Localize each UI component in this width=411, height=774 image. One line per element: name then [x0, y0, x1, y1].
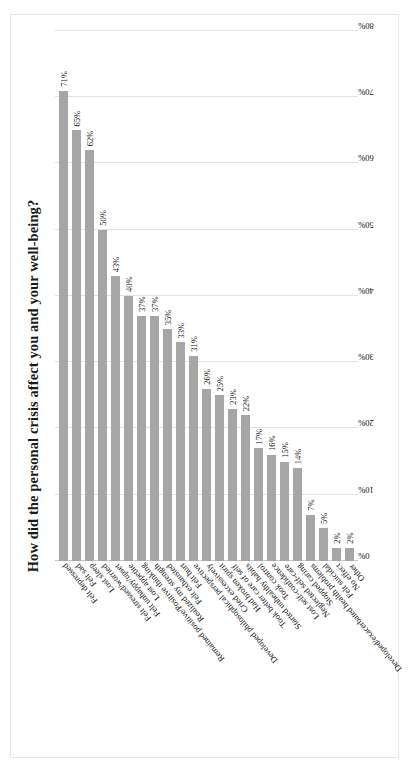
- bar-value-label: 7%: [306, 499, 316, 510]
- bar-value-label: 2%: [332, 532, 342, 543]
- bar-row[interactable]: 31%: [187, 31, 200, 561]
- category-row: Took better care of self: [226, 561, 239, 757]
- axis-tick-label: 10%: [358, 485, 374, 495]
- bar-value-label: 37%: [137, 296, 147, 312]
- category-row: Developed/exacerbated health problems: [304, 561, 317, 757]
- bar-value-label: 2%: [345, 532, 355, 543]
- bar[interactable]: [254, 448, 262, 561]
- category-row: Took control: [252, 561, 265, 757]
- bar[interactable]: [319, 528, 327, 561]
- category-label: Other: [346, 562, 366, 583]
- value-axis: 0%10%20%30%40%50%60%70%80%: [358, 31, 390, 561]
- bar[interactable]: [163, 329, 171, 561]
- category-row: Stopped caring: [291, 561, 304, 757]
- bar[interactable]: [306, 515, 314, 561]
- bar[interactable]: [332, 548, 340, 561]
- bar[interactable]: [98, 230, 106, 561]
- bar-value-label: 62%: [85, 131, 95, 147]
- bar-value-label: 50%: [98, 210, 108, 226]
- bar[interactable]: [241, 415, 249, 561]
- axis-tick-label: 40%: [358, 286, 374, 296]
- chart-title: How did the personal crisis affect you a…: [25, 15, 42, 757]
- bar[interactable]: [202, 389, 210, 561]
- bar-row[interactable]: 23%: [226, 31, 239, 561]
- category-row: No effect: [330, 561, 343, 757]
- bar-row[interactable]: 26%: [200, 31, 213, 561]
- category-row: Neglected self-care: [278, 561, 291, 757]
- bar-row[interactable]: 14%: [291, 31, 304, 561]
- bar-value-label: 40%: [124, 276, 134, 292]
- bar-row[interactable]: 40%: [122, 31, 135, 561]
- category-row: Remained positive/Positive thinking: [135, 561, 148, 757]
- bar-row[interactable]: 35%: [161, 31, 174, 561]
- bar-row[interactable]: 15%: [278, 31, 291, 561]
- bar-value-label: 14%: [293, 449, 303, 465]
- bar[interactable]: [189, 356, 197, 561]
- bar-value-label: 23%: [228, 389, 238, 405]
- bar-row[interactable]: 65%: [70, 31, 83, 561]
- bar-row[interactable]: 2%: [343, 31, 356, 561]
- bar[interactable]: [124, 296, 132, 561]
- bar-row[interactable]: 33%: [174, 31, 187, 561]
- bar-value-label: 37%: [150, 296, 160, 312]
- category-row: Had broken spirit: [213, 561, 226, 757]
- axis-tick-label: 50%: [358, 220, 374, 230]
- category-row: Lost self-confidence: [265, 561, 278, 757]
- bar-row[interactable]: 37%: [148, 31, 161, 561]
- bar-row[interactable]: 50%: [96, 31, 109, 561]
- bar-row[interactable]: 5%: [317, 31, 330, 561]
- bar-row[interactable]: 2%: [330, 31, 343, 561]
- bar[interactable]: [72, 130, 80, 561]
- chart-page: How did the personal crisis affect you a…: [0, 0, 411, 774]
- bar[interactable]: [85, 150, 93, 561]
- axis-tick-label: 70%: [358, 87, 374, 97]
- bar-value-label: 16%: [267, 435, 277, 451]
- category-row: Realized my strength: [148, 561, 161, 757]
- category-row: Lost sleep: [83, 561, 96, 757]
- bar-value-label: 25%: [215, 376, 225, 392]
- bar-row[interactable]: 62%: [83, 31, 96, 561]
- bar[interactable]: [345, 548, 353, 561]
- category-axis: Felt depressedFelt sadLost sleepFelt str…: [55, 561, 358, 757]
- axis-tick-label: 60%: [358, 154, 374, 164]
- bar-series: 71%65%62%50%43%40%37%37%35%33%31%26%25%2…: [55, 31, 358, 561]
- bar[interactable]: [293, 468, 301, 561]
- bar-value-label: 65%: [72, 111, 82, 127]
- category-row: Developed philosophical perspective: [187, 561, 200, 757]
- category-row: Felt stressed/worried: [96, 561, 109, 757]
- bar-value-label: 26%: [202, 369, 212, 385]
- category-row: Felt suicidal: [317, 561, 330, 757]
- bar[interactable]: [111, 276, 119, 561]
- bar[interactable]: [215, 395, 223, 561]
- bar-row[interactable]: 43%: [109, 31, 122, 561]
- category-row: Lost appetite: [122, 561, 135, 757]
- bar-value-label: 31%: [189, 336, 199, 352]
- bar[interactable]: [280, 462, 288, 561]
- bar-row[interactable]: 16%: [265, 31, 278, 561]
- bar[interactable]: [59, 91, 67, 561]
- axis-tick-label: 30%: [358, 352, 374, 362]
- bar-row[interactable]: 71%: [57, 31, 70, 561]
- axis-tick-label: 80%: [358, 21, 374, 31]
- bar[interactable]: [267, 455, 275, 561]
- bar-value-label: 43%: [111, 257, 121, 273]
- bar-value-label: 15%: [280, 442, 290, 458]
- category-row: Other: [343, 561, 356, 757]
- bar[interactable]: [228, 409, 236, 561]
- category-row: Felt depressed: [57, 561, 70, 757]
- bar-row[interactable]: 37%: [135, 31, 148, 561]
- bar-row[interactable]: 25%: [213, 31, 226, 561]
- bar-value-label: 33%: [176, 323, 186, 339]
- axis-tick-label: 0%: [358, 551, 369, 561]
- bar[interactable]: [137, 316, 145, 561]
- plot-area: 71%65%62%50%43%40%37%37%35%33%31%26%25%2…: [55, 31, 358, 561]
- bar-row[interactable]: 22%: [239, 31, 252, 561]
- bar-value-label: 5%: [319, 513, 329, 524]
- bar[interactable]: [150, 316, 158, 561]
- bar-row[interactable]: 17%: [252, 31, 265, 561]
- axis-tick-label: 20%: [358, 419, 374, 429]
- bar-row[interactable]: 7%: [304, 31, 317, 561]
- bar-value-label: 35%: [163, 310, 173, 326]
- bar[interactable]: [176, 342, 184, 561]
- category-row: Started unhealthy habits: [239, 561, 252, 757]
